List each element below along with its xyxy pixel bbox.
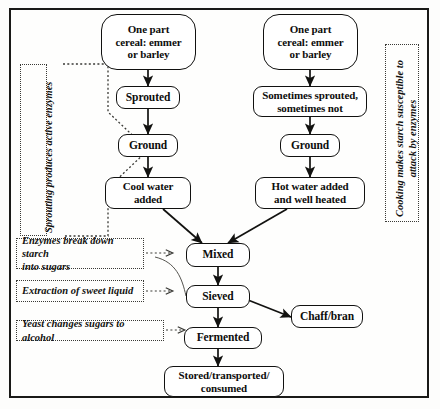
node-hot-water-label: Hot water addedand well heated (259, 180, 361, 205)
node-mixed-label: Mixed (190, 248, 246, 261)
node-hot-water: Hot water addedand well heated (255, 177, 365, 209)
node-right-cereal: One partcereal: emmeror barley (263, 14, 358, 70)
callout-yeast: Yeast changes sugars to alcohol (16, 320, 164, 341)
arrow-hotwater-to-mixed (228, 209, 287, 243)
node-ground-right-label: Ground (284, 139, 336, 152)
node-sometimes-sprouted: Sometimes sprouted,sometimes not (253, 86, 367, 117)
node-stored: Stored/transported/consumed (164, 366, 284, 397)
node-right-cereal-label: One partcereal: emmeror barley (267, 23, 354, 61)
callout-sprouting: Sprouting produces active enzymes (20, 64, 47, 236)
flowchart-page: One partcereal: emmeror barley One partc… (0, 0, 440, 409)
callout-cooking: Cooking makes starch susceptible toattac… (385, 44, 419, 222)
node-chaff-bran-label: Chaff/bran (295, 310, 359, 323)
node-sometimes-sprouted-label: Sometimes sprouted,sometimes not (257, 89, 363, 114)
node-ground-left: Ground (118, 134, 178, 157)
node-sprouted-label: Sprouted (120, 91, 176, 104)
node-cool-water-label: Cool wateradded (109, 180, 187, 205)
node-chaff-bran: Chaff/bran (291, 305, 363, 328)
curve-enzymes-to-sieved (155, 257, 186, 296)
node-mixed: Mixed (186, 243, 250, 267)
node-fermented-label: Fermented (188, 331, 258, 344)
node-left-cereal-label: One partcereal: emmeror barley (105, 23, 192, 61)
node-ground-right: Ground (280, 134, 340, 157)
callout-enzymes: Enzymes break down starchinto sugars (16, 238, 144, 269)
node-sprouted: Sprouted (116, 86, 180, 109)
node-stored-label: Stored/transported/consumed (168, 369, 280, 394)
callout-yeast-label: Yeast changes sugars to alcohol (22, 317, 158, 343)
node-cool-water: Cool wateradded (105, 177, 191, 209)
node-sieved: Sieved (186, 285, 250, 308)
callout-extraction-label: Extraction of sweet liquid (22, 284, 133, 297)
callout-cooking-label: Cooking makes starch susceptible toattac… (393, 60, 419, 217)
arrow-sieved-to-chaff (248, 300, 291, 317)
callout-enzymes-label: Enzymes break down starchinto sugars (22, 234, 138, 273)
node-fermented: Fermented (184, 327, 262, 349)
callout-sprouting-label: Sprouting produces active enzymes (42, 82, 55, 233)
arrow-coolwater-to-mixed (163, 209, 202, 243)
node-left-cereal: One partcereal: emmeror barley (101, 14, 196, 70)
node-sieved-label: Sieved (190, 290, 246, 303)
callout-extraction: Extraction of sweet liquid (16, 280, 144, 302)
node-ground-left-label: Ground (122, 139, 174, 152)
